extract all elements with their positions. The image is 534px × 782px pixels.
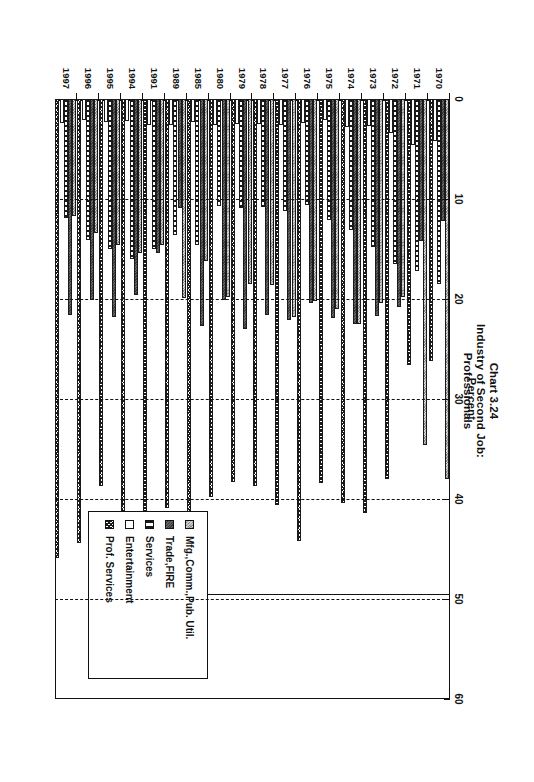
bar	[165, 99, 169, 508]
x-tick-label: 0	[453, 96, 464, 102]
bar	[191, 99, 195, 122]
bar	[297, 99, 301, 541]
bar	[367, 99, 371, 126]
y-tick-mark	[252, 93, 253, 99]
y-axis-category-labels: 1970197119721973197419751976197719781979…	[55, 41, 450, 97]
y-tick-mark	[317, 93, 318, 99]
legend-leader-line	[208, 594, 450, 595]
bar	[323, 99, 327, 120]
y-tick-mark	[361, 93, 362, 99]
y-tick-mark	[339, 93, 340, 99]
bar	[55, 99, 59, 558]
legend-item[interactable]: Services	[140, 520, 160, 670]
x-tick-label: 50	[453, 593, 464, 604]
bar	[248, 99, 252, 284]
bar	[349, 99, 353, 230]
bar	[433, 99, 437, 141]
bar	[94, 99, 98, 233]
bar	[169, 99, 173, 125]
legend-item-label: Trade,FIRE	[165, 536, 176, 588]
bar	[393, 99, 397, 264]
bar	[265, 99, 269, 315]
bar	[283, 99, 287, 211]
bar	[301, 99, 305, 123]
chart-page: Chart 3.24 Industry of Second Job: Profe…	[0, 0, 534, 782]
y-category-label: 1991	[148, 68, 159, 89]
bar	[204, 99, 208, 261]
x-tick-label: 40	[453, 493, 464, 504]
y-category-label: 1995	[104, 68, 115, 89]
x-tick-label: 30	[453, 393, 464, 404]
x-tick-label: 60	[453, 693, 464, 704]
legend-item[interactable]: Entertainment	[120, 520, 140, 670]
bar	[108, 99, 112, 249]
bar	[401, 99, 405, 297]
bar	[429, 99, 433, 361]
bar	[243, 99, 247, 329]
y-category-label: 1976	[302, 68, 313, 89]
bar	[363, 99, 367, 513]
legend-swatch-icon	[186, 520, 195, 529]
bar	[82, 99, 86, 120]
bar	[68, 99, 72, 315]
bar	[217, 99, 221, 206]
x-axis-tick-labels: 0102030405060	[450, 99, 464, 699]
y-tick-mark	[120, 93, 121, 99]
bar	[213, 99, 217, 125]
chart-legend: Mfg.,Comm.,Pub. Util.Trade,FIREServicesE…	[88, 511, 208, 679]
y-tick-mark	[273, 93, 274, 99]
y-category-label: 1997	[60, 68, 71, 89]
legend-item[interactable]: Prof. Services	[100, 520, 120, 670]
bar	[407, 99, 411, 365]
y-tick-mark	[186, 93, 187, 99]
bar	[231, 99, 235, 482]
bar	[305, 99, 309, 205]
bar	[341, 99, 345, 503]
y-category-label: 1996	[82, 68, 93, 89]
bar	[116, 99, 120, 245]
bar	[437, 99, 441, 284]
bar	[147, 99, 151, 125]
y-tick-mark	[295, 93, 296, 99]
y-category-label: 1971	[412, 68, 423, 89]
bar	[125, 99, 129, 121]
y-category-label: 1974	[346, 68, 357, 89]
bar	[345, 99, 349, 127]
y-category-label: 1975	[324, 68, 335, 89]
bar	[389, 99, 393, 133]
y-tick-mark	[405, 93, 406, 99]
bar	[104, 99, 108, 122]
gridline	[55, 499, 450, 500]
y-category-label: 1970	[434, 68, 445, 89]
bar	[239, 99, 243, 208]
chart-title-line1: Chart 3.24	[487, 41, 500, 741]
bar	[445, 99, 449, 479]
bar	[174, 99, 178, 235]
bar	[134, 99, 138, 295]
legend-item[interactable]: Mfg.,Comm.,Pub. Util.	[180, 520, 200, 670]
y-category-label: 1980	[214, 68, 225, 89]
bar	[287, 99, 291, 320]
legend-item[interactable]: Trade,FIRE	[160, 520, 180, 670]
bar	[64, 99, 68, 218]
rotated-chart-stage: Chart 3.24 Industry of Second Job: Profe…	[34, 41, 500, 741]
y-category-label: 1977	[280, 68, 291, 89]
legend-item-label: Mfg.,Comm.,Pub. Util.	[185, 536, 196, 639]
legend-item-label: Prof. Services	[105, 536, 116, 603]
bar	[327, 99, 331, 220]
bar	[226, 99, 230, 297]
bar	[257, 99, 261, 124]
y-tick-mark	[76, 93, 77, 99]
x-tick-label: 20	[453, 293, 464, 304]
bar	[419, 99, 423, 241]
x-axis-title: Percent	[466, 99, 478, 699]
bar	[143, 99, 147, 520]
bar	[375, 99, 379, 316]
bar	[77, 99, 81, 543]
bar	[178, 99, 182, 208]
bar	[160, 99, 164, 245]
bar	[195, 99, 199, 245]
bar	[335, 99, 339, 309]
gridline	[55, 199, 450, 200]
bar	[261, 99, 265, 207]
